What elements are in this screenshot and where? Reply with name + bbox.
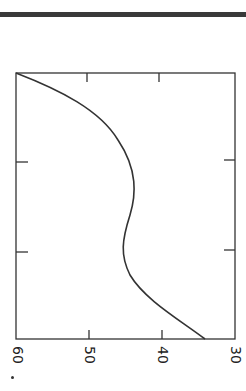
tick-label-40: 40 [155,343,171,367]
tick-label-50: 50 [82,343,98,367]
plot-frame [16,73,235,339]
plot-area [0,0,246,391]
tick-label-30: 30 [228,343,244,367]
tick-marks [16,73,235,339]
data-curve [16,73,205,339]
tick-label-60: 60 [10,343,26,367]
stray-dot [11,376,14,379]
